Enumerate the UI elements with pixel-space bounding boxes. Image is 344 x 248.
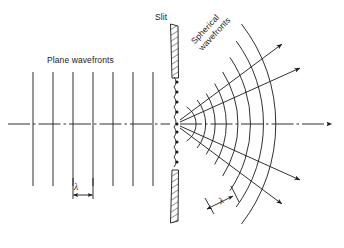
huygens-wavelets (174, 77, 179, 167)
wavelet-source-dot (176, 101, 179, 104)
wavelet-source-dot (176, 123, 179, 126)
huygens-wavelet (174, 77, 176, 87)
plane-wavefronts-label: Plane wavefronts (47, 55, 114, 65)
huygens-wavelet (174, 127, 176, 137)
wavelet-source-dot (176, 141, 179, 144)
huygens-wavelet (174, 137, 176, 147)
figure-canvas: Plane wavefronts Slit Spherical wavefron… (0, 0, 344, 248)
huygens-wavelet (174, 87, 176, 97)
wavelength-tick-outer (231, 186, 239, 202)
huygens-wavelet (174, 97, 176, 107)
wavelet-source-dot (176, 151, 179, 154)
radial-ray-upper-outer (180, 44, 282, 120)
slit-label: Slit (155, 12, 167, 22)
huygens-wavelet (174, 117, 176, 127)
wavelet-source-dot (176, 81, 179, 84)
wave-diffraction-diagram (0, 0, 344, 248)
huygens-wavelet (174, 157, 176, 167)
radial-ray-lower-outer (180, 128, 282, 204)
barrier-lower-segment (171, 170, 179, 223)
huygens-wavelet (174, 107, 176, 117)
wavelet-source-dot (176, 111, 179, 114)
wavelet-source-dot (176, 161, 179, 164)
wavelet-source-dot (176, 131, 179, 134)
wavelet-source-dot (176, 91, 179, 94)
barrier-upper-segment (171, 24, 179, 78)
huygens-wavelet (174, 147, 176, 157)
wavelength-label-left: λ (74, 182, 78, 192)
plane-wavefront-lines (33, 72, 153, 186)
